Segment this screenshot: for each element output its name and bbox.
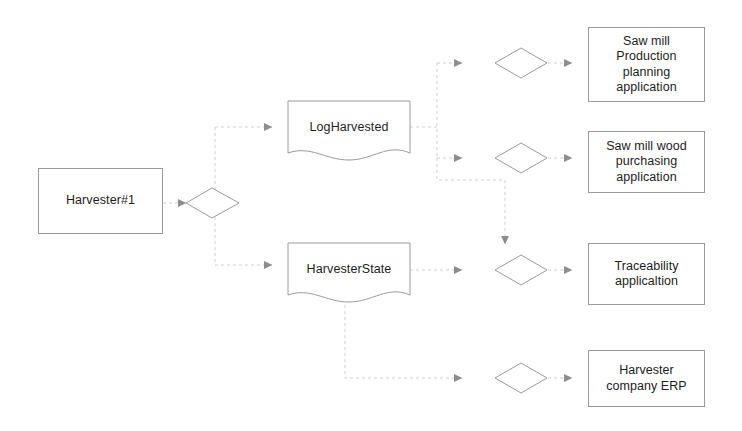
node-log-harvested[interactable]: LogHarvested (287, 100, 411, 168)
saw-mill-production-planning-label: Saw mill Production planning application (616, 34, 676, 95)
node-harvester-state[interactable]: HarvesterState (287, 242, 411, 310)
gateway-erp[interactable] (495, 363, 547, 393)
gateway-purchasing[interactable] (495, 143, 547, 173)
gateway-source[interactable] (186, 188, 239, 218)
node-saw-mill-production-planning[interactable]: Saw mill Production planning application (588, 27, 705, 102)
harvester-state-label: HarvesterState (287, 262, 411, 277)
node-traceability[interactable]: Traceability applicaltion (588, 243, 705, 305)
node-harvester-source[interactable]: Harvester#1 (38, 168, 163, 234)
saw-mill-wood-purchasing-label: Saw mill wood purchasing application (606, 139, 687, 185)
gateway-traceability[interactable] (495, 255, 547, 285)
gateway-production[interactable] (495, 48, 547, 78)
node-harvester-company-erp[interactable]: Harvester company ERP (588, 350, 705, 407)
node-saw-mill-wood-purchasing[interactable]: Saw mill wood purchasing application (588, 131, 705, 193)
harvester-company-erp-label: Harvester company ERP (606, 363, 686, 394)
traceability-label: Traceability applicaltion (614, 259, 678, 290)
harvester-source-label: Harvester#1 (66, 193, 135, 208)
log-harvested-label: LogHarvested (287, 120, 411, 135)
edge-harvester-state-to-gateway-erp (345, 305, 462, 378)
diagram-canvas: Harvester#1 LogHarvested HarvesterState … (0, 0, 742, 431)
